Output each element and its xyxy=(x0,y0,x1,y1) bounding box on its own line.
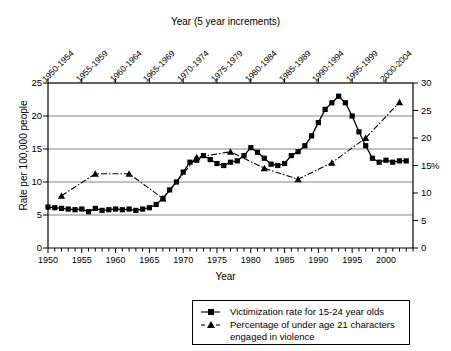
top-tick-label: 1950-1954 xyxy=(40,48,76,84)
top-tick-label: 1965-1969 xyxy=(141,48,177,84)
top-tick-label: 1960-1964 xyxy=(108,48,144,84)
legend-label-1: Percentage of under age 21 characters xyxy=(230,319,395,330)
legend-marker-square xyxy=(201,309,220,315)
top-tick-label: 1990-1994 xyxy=(310,48,346,84)
y-tick-label-right: 0 xyxy=(421,242,443,253)
x-tick-label: 2000 xyxy=(376,255,396,265)
top-tick-label: 1980-1984 xyxy=(243,48,279,84)
x-tick-label: 1980 xyxy=(241,255,261,265)
y-tick-label-right: 20 xyxy=(421,132,443,143)
top-tick-label: 2000-2004 xyxy=(378,48,414,84)
top-tick-label: 1995-1999 xyxy=(344,48,380,84)
x-tick-label: 1990 xyxy=(308,255,328,265)
y-tick-label-left: 15 xyxy=(20,143,42,154)
x-tick-label: 1965 xyxy=(139,255,159,265)
x-tick-label: 1995 xyxy=(342,255,362,265)
y-tick-label-right: 15 xyxy=(421,160,443,171)
top-tick-label: 1970-1974 xyxy=(175,48,211,84)
y-tick-label-left: 10 xyxy=(20,176,42,187)
y-tick-label-left: 20 xyxy=(20,110,42,121)
top-tick-label: 1985-1989 xyxy=(276,48,312,84)
y-tick-label-left: 5 xyxy=(20,209,42,220)
x-tick-label: 1950 xyxy=(38,255,58,265)
x-tick-label: 1955 xyxy=(72,255,92,265)
x-tick-label: 1975 xyxy=(207,255,227,265)
chart-figure: Year (5 year increments) Rate per 100,00… xyxy=(0,0,451,351)
legend-label-0: Victimization rate for 15-24 year olds xyxy=(230,306,384,317)
y-tick-label-right: 25 xyxy=(421,105,443,116)
legend-marker-triangle xyxy=(201,321,220,328)
x-tick-label: 1970 xyxy=(173,255,193,265)
y-tick-label-left: 0 xyxy=(20,242,42,253)
y-tick-label-right: 5 xyxy=(421,215,443,226)
x-tick-label: 1985 xyxy=(275,255,295,265)
chart-legend: Victimization rate for 15-24 year olds P… xyxy=(192,300,410,345)
top-tick-label: 1955-1959 xyxy=(74,48,110,84)
x-tick-label: 1960 xyxy=(106,255,126,265)
y-tick-label-left: 25 xyxy=(20,77,42,88)
y-tick-label-right: 10 xyxy=(421,187,443,198)
y-tick-label-right: 30 xyxy=(421,77,443,88)
top-tick-label: 1975-1979 xyxy=(209,48,245,84)
legend-label-1-line2: engaged in violence xyxy=(230,331,315,342)
